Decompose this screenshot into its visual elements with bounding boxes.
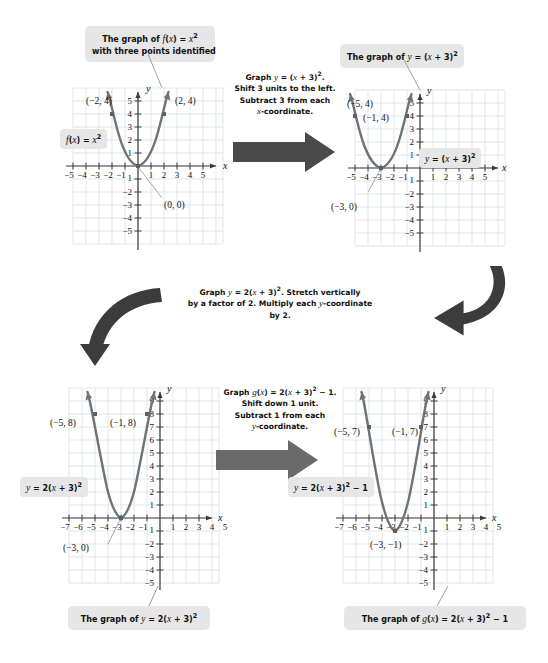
graph1-x-axis-label: x <box>222 160 228 171</box>
callout-graph4: The graph of g(x) = 2(x + 3)2 − 1 <box>344 606 526 630</box>
svg-text:2: 2 <box>150 487 155 497</box>
svg-text:−4: −4 <box>77 170 87 180</box>
step1-line-0: Graph y = (x + 3)2. <box>232 68 338 83</box>
graph1-equation-tag: f(x) = x2 <box>60 129 107 149</box>
svg-text:3: 3 <box>150 474 155 484</box>
step1-text: Graph y = (x + 3)2. Shift 3 units to the… <box>232 68 338 118</box>
graph2-point-label-0: (−5, 4) <box>347 99 373 109</box>
svg-text:1: 1 <box>149 170 154 180</box>
graph4-point-label-1: (−1, 7) <box>392 427 418 437</box>
svg-text:−3: −3 <box>404 202 414 212</box>
svg-text:3: 3 <box>457 172 462 182</box>
svg-text:4: 4 <box>128 109 133 119</box>
svg-text:−4: −4 <box>404 215 414 225</box>
svg-text:1: 1 <box>431 172 436 182</box>
svg-text:−6: −6 <box>347 522 357 532</box>
svg-text:−5: −5 <box>404 228 414 238</box>
svg-text:−1: −1 <box>138 522 148 532</box>
step2-line-1: by a factor of 2. Multiply each y-coordi… <box>155 298 405 310</box>
svg-text:2: 2 <box>458 522 463 532</box>
svg-text:5: 5 <box>223 522 228 532</box>
svg-text:1: 1 <box>171 522 176 532</box>
svg-text:2: 2 <box>424 487 429 497</box>
graph2-y-axis-label: y <box>426 85 432 96</box>
step1-line-3: x-coordinate. <box>232 106 338 118</box>
svg-text:−2: −2 <box>103 170 113 180</box>
svg-text:−3: −3 <box>112 522 122 532</box>
graph1-point-label-2: (0, 0) <box>164 200 185 210</box>
graph-1: −5 −4 −3 −2 −1 1 2 3 4 5 5 4 3 2 1 1 −2 … <box>60 80 230 255</box>
svg-text:−2: −2 <box>125 522 135 532</box>
svg-text:5: 5 <box>150 448 155 458</box>
svg-text:−4: −4 <box>144 565 154 575</box>
graph1-point-label-0: (−2, 4) <box>86 96 112 106</box>
step2-text: Graph y = 2(x + 3)2. Stretch vertically … <box>155 283 405 321</box>
svg-text:−4: −4 <box>122 213 132 223</box>
svg-text:4: 4 <box>424 461 429 471</box>
svg-text:−5: −5 <box>346 172 356 182</box>
svg-text:−5: −5 <box>86 522 96 532</box>
callout-graph4-line1: The graph of g(x) = 2(x + 3)2 − 1 <box>351 610 519 626</box>
svg-text:−2: −2 <box>404 189 414 199</box>
svg-text:1: 1 <box>410 150 415 160</box>
graph4-y-axis-label: y <box>440 383 446 394</box>
svg-text:2: 2 <box>410 137 415 147</box>
step1-line-1: Shift 3 units to the left. <box>232 83 338 95</box>
svg-text:1: 1 <box>445 522 450 532</box>
svg-text:2: 2 <box>128 135 133 145</box>
step3-arrow-right-icon <box>216 440 320 480</box>
graph3-x-axis-label: x <box>217 512 223 523</box>
svg-text:−3: −3 <box>144 552 154 562</box>
graph2-equation-tag: y = (x + 3)2 <box>419 148 481 168</box>
svg-text:−3: −3 <box>372 172 382 182</box>
graph3-point-label-0: (−5, 8) <box>50 418 76 428</box>
graph2-point-label-1: (−1, 4) <box>363 113 389 123</box>
graph4-x-axis-label: x <box>491 512 497 523</box>
svg-text:5: 5 <box>497 522 502 532</box>
svg-text:6: 6 <box>150 435 155 445</box>
svg-text:−3: −3 <box>122 200 132 210</box>
svg-text:−5: −5 <box>122 226 132 236</box>
svg-text:5: 5 <box>128 96 133 106</box>
svg-text:3: 3 <box>410 124 415 134</box>
svg-text:1: 1 <box>424 500 429 510</box>
svg-text:−5: −5 <box>64 170 74 180</box>
svg-text:−2: −2 <box>144 539 154 549</box>
svg-text:2: 2 <box>184 522 189 532</box>
svg-text:5: 5 <box>424 448 429 458</box>
svg-text:3: 3 <box>471 522 476 532</box>
svg-text:−3: −3 <box>418 552 428 562</box>
svg-text:2: 2 <box>162 170 167 180</box>
svg-text:6: 6 <box>424 435 429 445</box>
svg-text:1: 1 <box>128 173 133 183</box>
svg-text:7: 7 <box>150 422 155 432</box>
step1-arrow-right-icon <box>233 132 337 172</box>
graph3-y-axis-label: y <box>166 383 172 394</box>
svg-text:7: 7 <box>424 422 429 432</box>
svg-text:−6: −6 <box>73 522 83 532</box>
svg-text:1: 1 <box>410 175 415 185</box>
svg-text:−1: −1 <box>398 172 408 182</box>
callout-graph1-line1: The graph of f(x) = x2 <box>92 30 208 46</box>
svg-text:−1: −1 <box>412 522 422 532</box>
svg-text:4: 4 <box>470 172 475 182</box>
svg-text:1: 1 <box>150 525 155 535</box>
svg-text:−3: −3 <box>90 170 100 180</box>
svg-text:−2: −2 <box>418 539 428 549</box>
graph2-x-axis-label: x <box>501 162 507 173</box>
graph1-point-label-1: (2, 4) <box>175 96 196 106</box>
svg-text:−5: −5 <box>418 578 428 588</box>
svg-text:4: 4 <box>410 111 415 121</box>
svg-text:3: 3 <box>128 122 133 132</box>
svg-text:2: 2 <box>444 172 449 182</box>
figure-stage: The graph of f(x) = x2 with three points… <box>0 0 548 663</box>
step2-arrow-tail-icon <box>80 288 190 366</box>
graph4-point-label-2: (−3, −1) <box>370 540 401 550</box>
svg-text:5: 5 <box>483 172 488 182</box>
callout-graph3: The graph of y = 2(x + 3)2 <box>68 606 210 630</box>
svg-text:4: 4 <box>150 461 155 471</box>
step2-line-0: Graph y = 2(x + 3)2. Stretch vertically <box>155 283 405 298</box>
svg-text:1: 1 <box>424 525 429 535</box>
graph2-point-label-2: (−3, 0) <box>331 202 357 212</box>
step2-arrow-left-icon <box>400 266 520 338</box>
